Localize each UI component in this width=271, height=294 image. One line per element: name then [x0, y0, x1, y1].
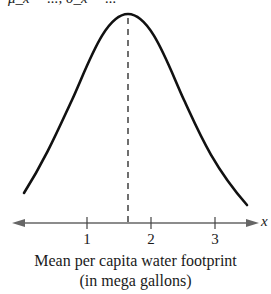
tick-label-1: 1 [77, 231, 97, 248]
tick-label-2: 2 [141, 231, 161, 248]
clipped-header-text: μ_x̄ = ..., σ_x̄ = ... [8, 0, 117, 7]
x-axis-label-line2: (in mega gallons) [0, 271, 271, 291]
x-axis-variable: x [261, 213, 268, 230]
left-arrow-icon [12, 219, 25, 227]
tick-label-3: 3 [205, 231, 225, 248]
right-arrow-icon [246, 219, 259, 227]
x-axis-label-line1: Mean per capita water footprint [0, 251, 271, 271]
normal-distribution-chart [0, 0, 271, 294]
normal-curve [24, 14, 247, 205]
